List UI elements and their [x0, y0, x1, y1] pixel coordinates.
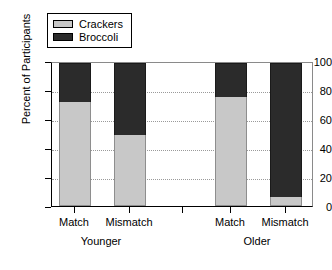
- y-tick-mark-0: [45, 207, 51, 208]
- x-tick-mark-younger-match: [74, 207, 75, 213]
- bar-segment-crackers: [215, 97, 247, 206]
- y-axis-title: Percent of Participants: [19, 0, 33, 142]
- bar-segment-crackers: [270, 197, 302, 206]
- legend-label-broccoli: Broccoli: [79, 32, 118, 43]
- bar-chart-figure: Crackers Broccoli Percent of Participant…: [0, 0, 332, 270]
- x-tick-mark-older-mismatch: [285, 207, 286, 213]
- x-tick-label-younger-match: Match: [59, 216, 89, 228]
- bar-segment-broccoli: [215, 63, 247, 97]
- bar-segment-broccoli: [114, 63, 146, 135]
- bar-segment-crackers: [114, 135, 146, 207]
- legend-item-broccoli: Broccoli: [53, 31, 123, 43]
- plot-area: [51, 62, 313, 207]
- bar-older-mismatch: [270, 63, 302, 206]
- legend-swatch-crackers: [53, 20, 73, 28]
- bar-segment-broccoli: [59, 63, 91, 102]
- group-label-older: Older: [244, 235, 271, 247]
- legend-label-crackers: Crackers: [79, 19, 123, 30]
- bar-older-match: [215, 63, 247, 206]
- bar-segment-broccoli: [270, 63, 302, 197]
- bar-younger-mismatch: [114, 63, 146, 206]
- x-tick-label-younger-mismatch: Mismatch: [105, 216, 152, 228]
- x-tick-label-older-match: Match: [215, 216, 245, 228]
- legend-item-crackers: Crackers: [53, 18, 123, 30]
- bar-younger-match: [59, 63, 91, 206]
- x-tick-mark-younger-mismatch: [129, 207, 130, 213]
- x-tick-mark-older-match: [230, 207, 231, 213]
- x-tick-mark-center: [182, 207, 183, 213]
- group-label-younger: Younger: [81, 235, 122, 247]
- legend-swatch-broccoli: [53, 33, 73, 41]
- chart-legend: Crackers Broccoli: [47, 13, 132, 48]
- bar-segment-crackers: [59, 102, 91, 206]
- x-tick-label-older-mismatch: Mismatch: [261, 216, 308, 228]
